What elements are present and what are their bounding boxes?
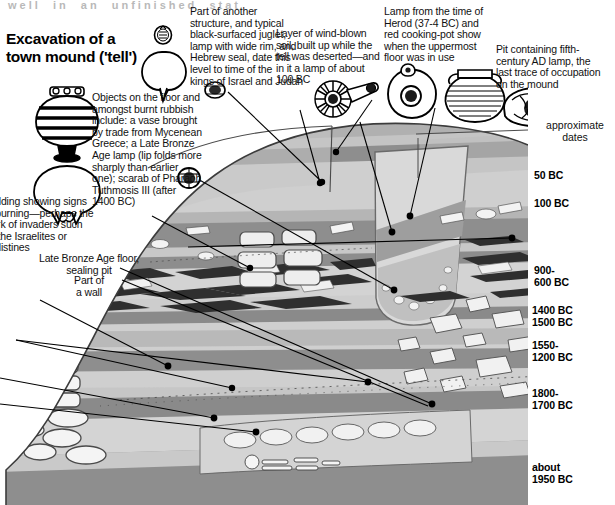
date-1800-1700bc: 1800- 1700 BC xyxy=(532,388,573,411)
annotation-herod-lamp: Lamp from the time of Herod (37-4 BC) an… xyxy=(384,6,504,64)
annotation-part-of-wall: Part of a wall xyxy=(58,275,120,298)
page-title: Excavation of a town mound ('tell') xyxy=(6,30,137,65)
mycenean-vase-icon xyxy=(36,87,98,162)
annotation-lba-floor: Late Bronze Age floor, sealing pit xyxy=(26,253,152,276)
date-1550-1200bc: 1550- 1200 BC xyxy=(532,340,573,363)
date-1500bc: 1500 BC xyxy=(532,317,573,329)
herod-lamp-icon xyxy=(388,64,436,118)
date-50bc: 50 BC xyxy=(534,170,563,182)
approximate-dates-label: approximate dates xyxy=(538,120,612,143)
hebrew-seal-icon xyxy=(155,26,172,44)
lamp-100bc-icon xyxy=(315,81,378,117)
date-900-600bc: 900- 600 BC xyxy=(534,265,569,288)
date-1400bc: 1400 BC xyxy=(532,305,573,317)
diagram-canvas: well in an unfinished stat Excavation of… xyxy=(0,0,615,505)
date-about-1950bc: about 1950 BC xyxy=(532,462,573,485)
date-100bc: 100 BC xyxy=(534,198,569,210)
annotation-wind-blown-soil: Layer of wind-blown soil, built up while… xyxy=(276,28,394,86)
annotation-fifth-century-pit: Pit containing fifth- century AD lamp, t… xyxy=(496,44,612,90)
annotation-mycenean-objects: Objects on the floor and amongst burnt r… xyxy=(92,92,214,208)
annotation-burnt-building: Building showing signs of burning—perhap… xyxy=(0,196,110,254)
